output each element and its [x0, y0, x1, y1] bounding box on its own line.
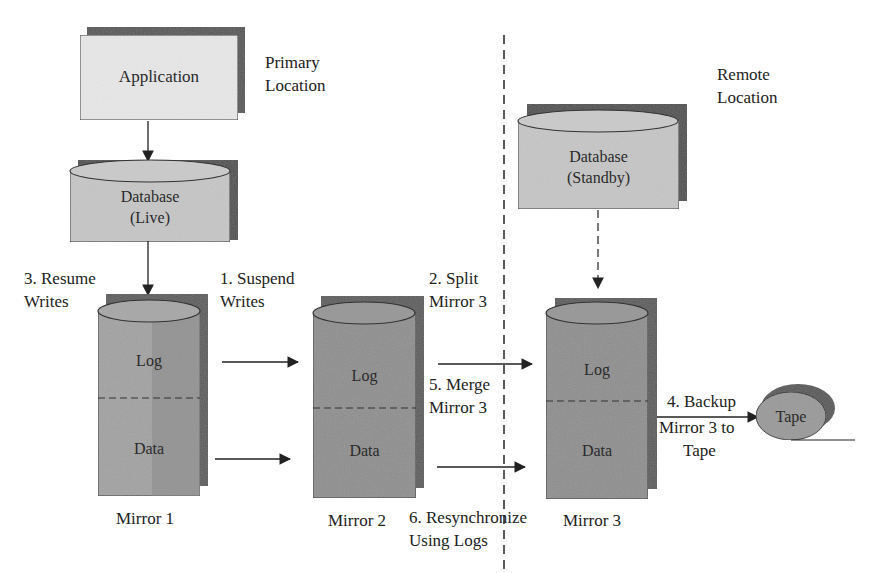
- mirror1-data: Data: [98, 438, 200, 459]
- mirror1-caption: Mirror 1: [116, 508, 174, 530]
- step3-line1: 3. Resume: [24, 268, 96, 290]
- step2-line1: 2. Split: [429, 268, 478, 290]
- primary-location-line1: Primary: [265, 52, 320, 74]
- mirror3-log: Log: [546, 359, 648, 380]
- mirror2-data: Data: [313, 440, 416, 461]
- step5-line2: Mirror 3: [429, 397, 487, 419]
- db-standby-line1: Database: [518, 146, 679, 167]
- mirror2-caption: Mirror 2: [328, 510, 386, 532]
- remote-location-line1: Remote: [717, 64, 770, 86]
- mirror2-cylinder: [313, 296, 424, 498]
- step2-line2: Mirror 3: [429, 291, 487, 313]
- step4-line3: Tape: [683, 440, 716, 462]
- mirror3-cylinder: [546, 298, 657, 499]
- step6-line2: Using Logs: [409, 530, 488, 552]
- mirror3-data: Data: [546, 440, 648, 461]
- step1-line2: Writes: [220, 291, 265, 313]
- step4-line2: Mirror 3 to: [659, 417, 735, 439]
- application-label: Application: [80, 66, 238, 87]
- step4-line1: 4. Backup: [667, 391, 736, 413]
- remote-location-line2: Location: [717, 87, 777, 109]
- mirror1-log: Log: [98, 350, 200, 371]
- tape-label: Tape: [756, 406, 826, 427]
- primary-location-line2: Location: [265, 75, 325, 97]
- mirror2-log: Log: [313, 365, 416, 386]
- db-standby-line2: (Standby): [518, 167, 679, 188]
- step1-line1: 1. Suspend: [220, 268, 295, 290]
- db-live-line2: (Live): [70, 207, 230, 228]
- step3-line2: Writes: [24, 291, 69, 313]
- step6-line1: 6. Resynchronize: [409, 507, 527, 529]
- mirror3-caption: Mirror 3: [563, 510, 621, 532]
- db-live-line1: Database: [70, 186, 230, 207]
- mirror1-cylinder: [98, 294, 208, 496]
- step5-line1: 5. Merge: [429, 374, 490, 396]
